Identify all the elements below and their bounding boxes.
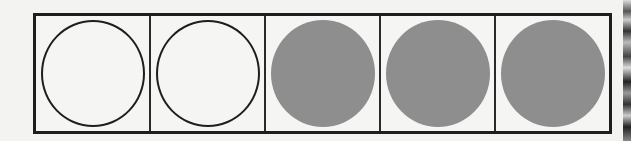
filled-circle-icon [386, 20, 490, 127]
grid-cell [381, 16, 496, 131]
circle-row-frame [33, 13, 612, 134]
grid-cell [266, 16, 381, 131]
grid-cell [151, 16, 266, 131]
filled-circle-icon [271, 20, 375, 127]
empty-circle-icon [41, 20, 145, 127]
scan-edge-artifact [623, 0, 631, 141]
filled-circle-icon [501, 20, 605, 127]
empty-circle-icon [156, 20, 260, 127]
grid-cell [496, 16, 609, 131]
diagram-canvas [0, 0, 631, 141]
grid-cell [36, 16, 151, 131]
